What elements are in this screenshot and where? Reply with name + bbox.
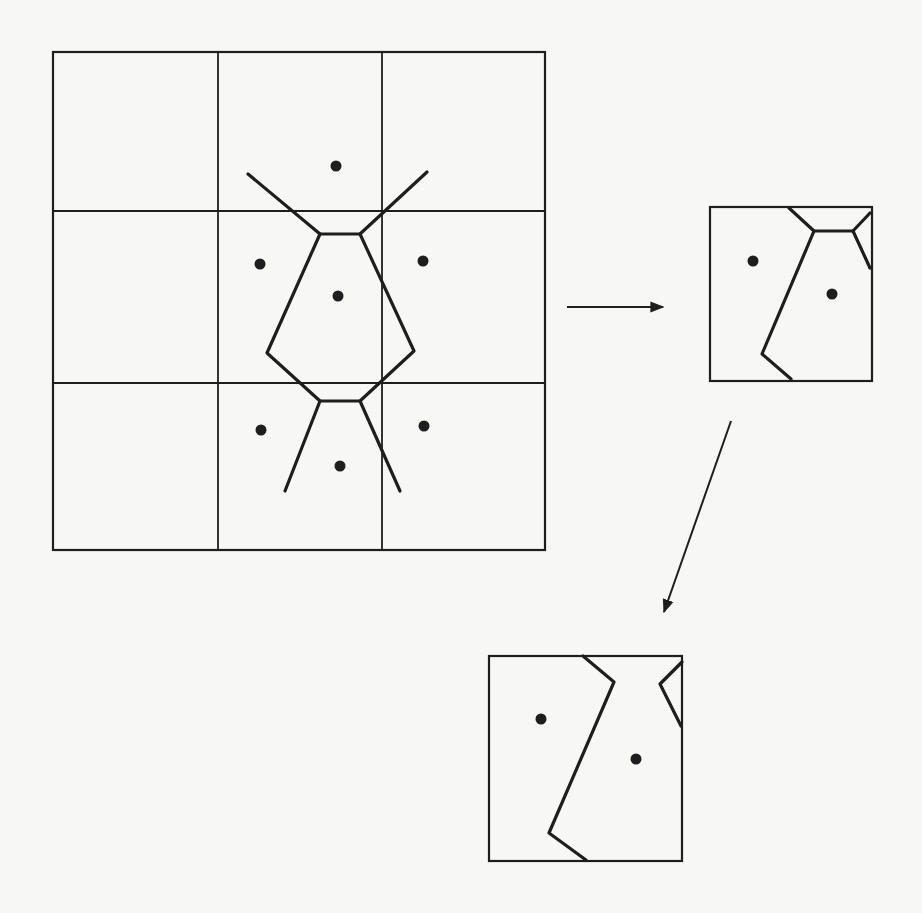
voronoi-edge <box>285 401 320 491</box>
voronoi-edge <box>853 231 870 268</box>
seed-point <box>333 291 344 302</box>
main-grid-3x3 <box>53 52 545 550</box>
seed-point <box>331 161 342 172</box>
arrow-down-icon <box>664 421 731 612</box>
voronoi-edge <box>762 231 814 379</box>
seed-point <box>256 425 267 436</box>
seed-point <box>827 289 838 300</box>
seed-point <box>748 256 759 267</box>
voronoi-edge <box>789 208 870 231</box>
tile-border <box>53 52 545 550</box>
tile-border <box>710 207 872 381</box>
voronoi-edge <box>248 172 427 234</box>
seed-point <box>631 754 642 765</box>
seed-point <box>536 714 547 725</box>
tile-border <box>489 656 682 861</box>
seed-point <box>335 461 346 472</box>
seed-point <box>419 421 430 432</box>
extracted-tile-right <box>710 207 872 381</box>
seed-point <box>418 256 429 267</box>
seed-point <box>255 259 266 270</box>
voronoi-edge <box>267 234 414 401</box>
voronoi-edge <box>360 401 400 491</box>
voronoi-diagram-figure <box>0 0 922 913</box>
extracted-tile-bottom <box>489 656 682 861</box>
voronoi-edge <box>549 656 614 860</box>
voronoi-edge <box>660 662 682 726</box>
